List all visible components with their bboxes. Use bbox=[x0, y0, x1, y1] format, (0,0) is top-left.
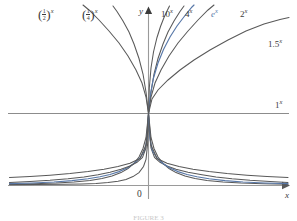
curve-label-one-half: (12)x bbox=[38, 8, 54, 21]
base-onepointfive: 1.5 bbox=[268, 39, 279, 49]
exponent-one: x bbox=[280, 98, 283, 105]
curve-one-half-to-the-x bbox=[83, 5, 288, 182]
exponent-quarter: x bbox=[95, 7, 98, 14]
curve-label-one: 1x bbox=[275, 101, 282, 110]
paren-close-quarter: ) bbox=[90, 7, 94, 22]
plot-canvas bbox=[0, 0, 297, 221]
paren-close-half: ) bbox=[46, 7, 50, 22]
curve-label-onepointfive: 1.5x bbox=[268, 40, 282, 49]
exponential-functions-figure: (12)x (14)x 10x 4x ex 2x 1.5x 1x y x 0 F… bbox=[0, 0, 297, 221]
exponent-ten: x bbox=[170, 7, 173, 14]
exponent-two: x bbox=[245, 7, 248, 14]
curve-label-two: 2x bbox=[240, 10, 247, 19]
curve-two-to-the-x bbox=[10, 5, 215, 182]
curve-label-four: 4x bbox=[185, 10, 192, 19]
y-axis-arrowhead bbox=[145, 7, 152, 15]
exponent-onepointfive: x bbox=[279, 37, 282, 44]
curve-one-over-e-to-the-x bbox=[149, 114, 289, 184]
exponent-e: x bbox=[215, 7, 218, 14]
curve-e-to-the-x bbox=[10, 5, 195, 184]
figure-caption: FIGURE 3 bbox=[0, 215, 297, 221]
y-axis-label: y bbox=[139, 7, 143, 16]
x-axis-label: x bbox=[285, 191, 289, 200]
base-ten: 10 bbox=[161, 9, 170, 19]
curve-label-e: ex bbox=[211, 10, 218, 19]
curve-label-one-quarter: (14)x bbox=[82, 8, 98, 21]
origin-label: 0 bbox=[137, 190, 142, 200]
curve-label-ten: 10x bbox=[161, 10, 173, 19]
exponent-half: x bbox=[51, 7, 54, 14]
exponent-four: x bbox=[190, 7, 193, 14]
